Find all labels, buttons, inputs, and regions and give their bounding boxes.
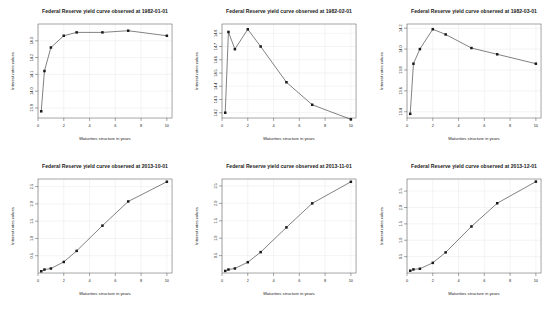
x-tick-label: 4 [88,124,90,128]
plot-frame [407,179,541,273]
data-point-marker [247,260,250,263]
x-tick-label: 0 [37,279,39,283]
y-tick-label: 14.3 [30,37,34,44]
data-point-marker [43,268,46,271]
data-point-marker [40,270,43,273]
x-tick-label: 10 [533,279,537,283]
data-point-marker [228,268,231,271]
yield-curve-line [41,31,167,112]
y-tick-label: 14.8 [215,30,219,37]
data-point-marker [101,31,104,34]
x-tick-label: 6 [299,124,301,128]
y-tick-label: 14.6 [215,56,219,63]
data-point-marker [418,48,421,51]
data-point-marker [166,35,169,38]
data-point-marker [127,29,130,32]
chart-panel-2: Federal Reserve yield curve observed at … [184,0,368,155]
y-tick-label: 2.5 [215,183,219,188]
y-tick-label: 13.8 [399,66,403,73]
data-point-marker [286,226,289,229]
y-tick-label: 0.5 [215,252,219,257]
yield-curve-line [226,29,352,119]
data-point-marker [50,46,53,49]
y-axis: 13.914.014.114.214.3 [30,37,38,112]
x-tick-label: 0 [221,124,223,128]
y-axis-label: Interest rates values [10,52,15,90]
x-tick-label: 10 [165,124,169,128]
x-axis: 0246810 [37,273,169,283]
data-point-marker [496,53,499,56]
chart-title: Federal Reserve yield curve observed at … [42,163,168,169]
x-tick-label: 2 [247,279,249,283]
x-tick-label: 6 [114,279,116,283]
x-axis-label: Maturities structure in years [264,291,315,296]
data-point-marker [534,62,537,65]
data-point-markers [409,180,537,272]
data-point-marker [75,31,78,34]
x-axis: 0246810 [406,273,538,283]
data-point-marker [431,261,434,264]
data-point-marker [470,225,473,228]
x-tick-label: 8 [324,279,326,283]
x-tick-label: 10 [349,279,353,283]
x-tick-label: 2 [247,124,249,128]
x-tick-label: 4 [273,279,275,283]
chart-title: Federal Reserve yield curve observed at … [42,8,168,14]
plot-frame [38,179,172,273]
y-axis-label: Interest rates values [194,207,199,245]
y-axis: 0.51.01.52.02.5 [30,183,38,257]
x-axis-label: Maturities structure in years [448,136,499,141]
x-tick-label: 4 [457,124,459,128]
y-tick-label: 1.0 [30,235,34,240]
data-point-marker [409,113,412,116]
x-tick-label: 2 [431,279,433,283]
data-point-marker [63,35,66,38]
x-tick-label: 10 [533,124,537,128]
data-point-marker [412,268,415,271]
data-point-marker [234,48,237,51]
x-tick-label: 8 [324,124,326,128]
data-point-marker [127,200,130,203]
y-tick-label: 2.5 [399,188,403,193]
y-axis-label: Interest rates values [379,207,384,245]
x-tick-label: 0 [221,279,223,283]
chart-panel-3: Federal Reserve yield curve observed at … [369,0,553,155]
plot-grid: Federal Reserve yield curve observed at … [0,0,553,309]
gridlines [38,179,172,273]
chart-panel-6: Federal Reserve yield curve observed at … [369,155,553,309]
y-tick-label: 13.9 [30,104,34,111]
y-tick-label: 14.2 [215,109,219,116]
data-point-marker [224,269,227,272]
y-tick-label: 2.5 [30,183,34,188]
x-axis: 0246810 [221,273,353,283]
gridlines [38,24,172,118]
data-point-marker [228,31,231,34]
plot-frame [38,24,172,118]
gridlines [222,179,356,273]
data-point-marker [350,180,353,183]
y-tick-label: 13.6 [399,87,403,94]
data-point-markers [409,28,537,115]
x-tick-label: 2 [63,279,65,283]
x-tick-label: 8 [140,124,142,128]
x-axis: 0246810 [37,118,169,128]
data-point-markers [224,28,352,121]
x-tick-label: 6 [483,279,485,283]
y-axis: 14.214.314.414.514.614.714.8 [215,30,223,117]
data-point-marker [444,251,447,254]
x-tick-label: 4 [88,279,90,283]
y-tick-label: 2.0 [215,200,219,205]
data-point-marker [409,269,412,272]
y-axis: 0.51.01.52.02.5 [399,188,407,259]
y-axis: 13.413.613.814.014.2 [399,24,407,115]
yield-curve-line [226,181,352,270]
data-point-marker [234,267,237,270]
y-tick-label: 14.2 [30,54,34,61]
x-tick-label: 2 [431,124,433,128]
y-tick-label: 14.4 [215,83,219,90]
x-tick-label: 0 [406,124,408,128]
y-tick-label: 0.5 [30,253,34,258]
y-tick-label: 1.5 [399,221,403,226]
gridlines [407,179,541,273]
y-axis-label: Interest rates values [194,52,199,90]
